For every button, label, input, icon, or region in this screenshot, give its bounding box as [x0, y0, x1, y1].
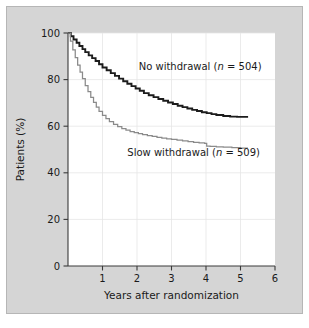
annotation-slow-withdrawal: Slow withdrawal (n = 509): [127, 147, 260, 158]
y-tick-label: 20: [47, 214, 60, 225]
figure-container: 123456020406080100 No withdrawal (n = 50…: [0, 0, 309, 328]
x-tick-label: 5: [237, 273, 243, 284]
y-tick-label: 100: [41, 28, 60, 39]
y-tick-label: 0: [54, 261, 60, 272]
x-tick-label: 6: [272, 273, 278, 284]
x-tick-label: 4: [203, 273, 209, 284]
y-tick-label: 40: [47, 167, 60, 178]
x-axis-title: Years after randomization: [103, 289, 239, 301]
annotation-no-withdrawal: No withdrawal (n = 504): [139, 61, 262, 72]
x-tick-label: 3: [168, 273, 174, 284]
y-tick-label: 60: [47, 121, 60, 132]
survival-chart: 123456020406080100 No withdrawal (n = 50…: [0, 0, 309, 328]
x-tick-label: 1: [99, 273, 105, 284]
y-axis-title: Patients (%): [14, 118, 26, 182]
x-tick-label: 2: [134, 273, 140, 284]
plot-wrapper: 123456020406080100 No withdrawal (n = 50…: [0, 0, 309, 328]
y-tick-label: 80: [47, 74, 60, 85]
